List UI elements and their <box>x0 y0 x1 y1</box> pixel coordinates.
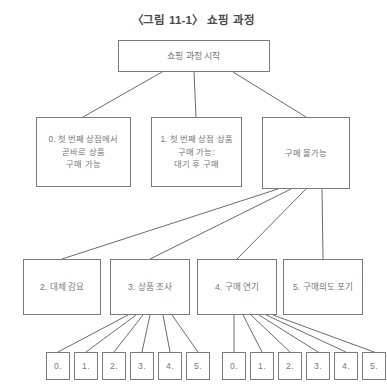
connector-delay-to-d4 <box>266 315 346 352</box>
node-opt0[interactable]: 0. 첫 번째 상점에서 곧바로 상품 구매 가능 <box>36 117 131 187</box>
connector-research-to-r3 <box>142 315 150 352</box>
connector-research-to-r1 <box>86 315 136 352</box>
connector-delay-to-d5 <box>273 315 374 352</box>
connector-research-to-r0 <box>58 315 128 352</box>
connector-research-to-r5 <box>172 315 198 352</box>
leaf-delay-0[interactable]: 0. <box>222 352 246 380</box>
leaf-delay-3[interactable]: 3. <box>306 352 330 380</box>
leaf-research-0[interactable]: 0. <box>46 352 70 380</box>
connector-unavailable-to-giveup <box>322 189 323 259</box>
leaf-delay-1[interactable]: 1. <box>250 352 274 380</box>
connector-unavailable-to-alt <box>62 189 278 259</box>
leaf-delay-5[interactable]: 5. <box>362 352 386 380</box>
node-research[interactable]: 3. 상품 조사 <box>110 259 190 315</box>
page-title: 〈그림 11-1〉 쇼핑 과정 <box>0 11 387 27</box>
node-root-shopping-start[interactable]: 쇼핑 과정 시작 <box>118 40 270 72</box>
connector-unavailable-to-delay <box>237 189 306 259</box>
connector-root-to-opt0 <box>83 72 162 117</box>
connector-delay-to-d3 <box>259 315 318 352</box>
node-alt[interactable]: 2. 대체 감요 <box>23 259 101 315</box>
leaf-research-4[interactable]: 4. <box>158 352 182 380</box>
node-unavailable[interactable]: 구매 불가능 <box>262 117 350 189</box>
leaf-delay-4[interactable]: 4. <box>334 352 358 380</box>
node-giveup[interactable]: 5. 구매의도 포기 <box>283 259 363 315</box>
leaf-research-2[interactable]: 2. <box>102 352 126 380</box>
leaf-research-5[interactable]: 5. <box>186 352 210 380</box>
connector-research-to-r2 <box>114 315 143 352</box>
connector-research-to-r4 <box>163 315 170 352</box>
leaf-delay-2[interactable]: 2. <box>278 352 302 380</box>
node-delay[interactable]: 4. 구매 연기 <box>197 259 277 315</box>
connector-root-to-unavailable <box>233 72 306 117</box>
connector-delay-to-d2 <box>251 315 290 352</box>
connector-delay-to-d1 <box>243 315 262 352</box>
leaf-research-3[interactable]: 3. <box>130 352 154 380</box>
leaf-research-1[interactable]: 1. <box>74 352 98 380</box>
connector-root-to-opt1 <box>194 72 196 117</box>
flowchart-diagram: 〈그림 11-1〉 쇼핑 과정 쇼핑 과정 시작0. 첫 번째 상점에서 곧바로… <box>0 0 387 391</box>
node-opt1[interactable]: 1. 첫 번째 상점 상품 구매 가능: 대기 후 구매 <box>151 117 242 187</box>
connector-unavailable-to-research <box>150 189 291 259</box>
